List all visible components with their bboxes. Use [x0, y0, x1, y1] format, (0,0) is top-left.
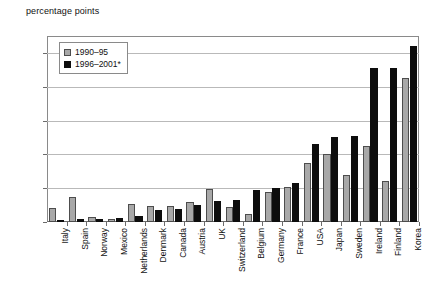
legend-label: 1990–95 [75, 47, 108, 57]
x-axis-tick-mark [419, 222, 420, 226]
x-axis-tick-label: Canada [178, 228, 188, 258]
y-axis-unit-label: percentage points [26, 6, 99, 16]
x-axis-tick-mark [106, 222, 107, 226]
x-axis-tick-label: Netherlands [139, 228, 149, 274]
x-axis-tick-label: Finland [393, 228, 403, 256]
x-axis-tick-mark [125, 222, 126, 226]
x-axis-tick-mark [282, 222, 283, 226]
x-axis-tick-label: Japan [334, 228, 344, 251]
x-axis-tick-label: Italy [60, 228, 70, 244]
x-axis-tick-mark [262, 222, 263, 226]
bar-chart: percentage points 0.000.200.400.600.801.… [0, 0, 429, 289]
x-axis-tick-label: France [295, 228, 305, 254]
legend-item: 1990–95 [64, 46, 121, 58]
x-axis-tick-mark [164, 222, 165, 226]
x-axis-tick-mark [321, 222, 322, 226]
x-axis-tick-mark [341, 222, 342, 226]
x-axis-tick-mark [302, 222, 303, 226]
x-axis-tick-mark [145, 222, 146, 226]
x-axis-tick-label: Spain [80, 228, 90, 250]
x-axis-tick-label: Norway [99, 228, 109, 257]
x-axis-tick-label: USA [315, 228, 325, 245]
x-axis-tick-label: Ireland [374, 228, 384, 254]
x-axis-tick-mark [86, 222, 87, 226]
x-axis-tick-mark [67, 222, 68, 226]
x-axis-tick-mark [380, 222, 381, 226]
x-axis-tick-label: Mexico [119, 228, 129, 255]
x-axis-tick-label: Korea [413, 228, 423, 251]
x-axis-tick-mark [184, 222, 185, 226]
x-axis-tick-label: Sweden [354, 228, 364, 259]
y-axis-tick-mark [43, 222, 47, 223]
x-axis-tick-label: Austria [197, 228, 207, 254]
legend: 1990–95 1996–2001* [59, 42, 128, 74]
x-axis-tick-mark [243, 222, 244, 226]
x-axis-tick-label: Belgium [256, 228, 266, 259]
bar [410, 46, 417, 222]
legend-swatch-icon [64, 49, 71, 56]
legend-swatch-icon [64, 61, 71, 68]
x-axis-tick-label: Switzerland [237, 228, 247, 272]
x-axis-tick-mark [204, 222, 205, 226]
x-axis-tick-label: Denmark [158, 228, 168, 262]
legend-label: 1996–2001* [75, 59, 121, 69]
x-axis-tick-label: Germany [276, 228, 286, 263]
x-axis-tick-mark [223, 222, 224, 226]
bar [402, 78, 409, 222]
x-axis-tick-mark [399, 222, 400, 226]
x-axis-tick-mark [360, 222, 361, 226]
legend-item: 1996–2001* [64, 58, 121, 70]
x-axis-tick-label: UK [217, 228, 227, 240]
